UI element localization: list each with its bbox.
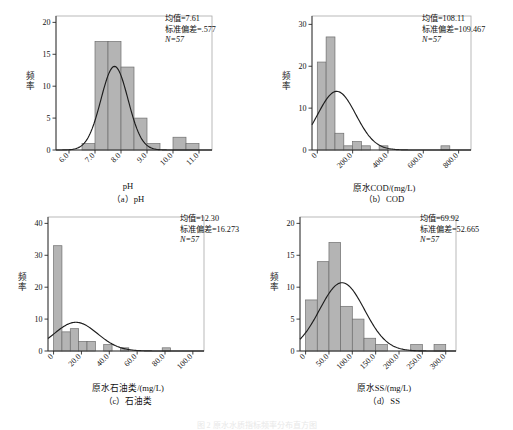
panel-d-caption: （d）SS (256, 394, 512, 406)
svg-text:50.0: 50.0 (314, 352, 330, 368)
figure-caption: 图 2 原水水质指标频率分布直方图 (0, 419, 513, 430)
panel-b-stats: 均值=108.11 标准偏差=109.467 N=57 (422, 14, 485, 46)
svg-text:300.0: 300.0 (428, 352, 447, 371)
panel-a-mean: 均值=7.61 (165, 14, 216, 25)
panel-c-sd: 标准偏差=16.273 (180, 225, 239, 236)
svg-text:20: 20 (43, 18, 51, 27)
svg-text:30: 30 (35, 251, 43, 260)
svg-text:11.0: 11.0 (184, 151, 200, 167)
svg-text:频: 频 (26, 70, 35, 81)
panel-a-ph: 051015206.07.08.09.010.011.0频率 均值=7.61 标… (0, 0, 256, 205)
svg-text:40: 40 (35, 219, 43, 228)
svg-text:率: 率 (270, 281, 279, 292)
panel-d-sd: 标准偏差=52.665 (420, 225, 479, 236)
panel-a-sd: 标准偏差=.577 (165, 25, 216, 36)
svg-text:0: 0 (303, 146, 307, 155)
svg-text:250.0: 250.0 (405, 352, 424, 371)
svg-text:0: 0 (47, 146, 51, 155)
svg-text:6.0: 6.0 (57, 151, 70, 164)
svg-text:100.0: 100.0 (335, 352, 354, 371)
svg-text:600.0: 600.0 (406, 151, 425, 170)
svg-text:20: 20 (287, 219, 295, 228)
panel-b-n: N=57 (422, 35, 485, 46)
panel-c-xlabel: 原水石油类/(mg/L) (0, 381, 256, 393)
svg-text:10: 10 (43, 82, 51, 91)
svg-text:9.0: 9.0 (135, 151, 148, 164)
svg-text:10: 10 (35, 315, 43, 324)
svg-text:20: 20 (299, 62, 307, 71)
panel-c-caption: （c）石油类 (0, 394, 256, 406)
svg-text:5: 5 (47, 114, 51, 123)
svg-text:150.0: 150.0 (358, 352, 377, 371)
svg-text:率: 率 (26, 80, 35, 91)
panel-b-cod: 01020300200.0400.0600.0800.0频率 均值=108.11… (256, 0, 512, 205)
svg-text:20.0: 20.0 (67, 352, 83, 368)
panel-b-caption: （b）COD (256, 192, 512, 204)
svg-text:率: 率 (18, 281, 27, 292)
svg-text:30: 30 (299, 20, 307, 29)
panel-d-xlabel: 原水SS/(mg/L) (256, 381, 512, 393)
svg-text:率: 率 (282, 80, 291, 91)
svg-text:400.0: 400.0 (370, 151, 389, 170)
svg-text:8.0: 8.0 (109, 151, 122, 164)
svg-text:15: 15 (287, 251, 295, 260)
svg-text:10.0: 10.0 (158, 151, 174, 167)
panel-d-stats: 均值=69.92 标准偏差=52.665 N=57 (420, 214, 479, 246)
svg-text:0: 0 (39, 347, 43, 356)
panel-a-caption: （a）pH (0, 192, 256, 204)
panel-c-stats: 均值=12.30 标准偏差=16.273 N=57 (180, 214, 239, 246)
panel-a-xlabel: pH (0, 181, 256, 191)
svg-text:7.0: 7.0 (83, 151, 96, 164)
svg-text:20: 20 (35, 283, 43, 292)
svg-text:频: 频 (282, 70, 291, 81)
panel-d-n: N=57 (420, 235, 479, 246)
svg-text:100.0: 100.0 (175, 352, 194, 371)
svg-text:200.0: 200.0 (335, 151, 354, 170)
svg-text:5: 5 (291, 315, 295, 324)
panel-c-oil: 010203040020.040.060.080.0100.0频率 均值=12.… (0, 205, 256, 410)
svg-text:0: 0 (291, 347, 295, 356)
panel-c-n: N=57 (180, 235, 239, 246)
svg-text:40.0: 40.0 (94, 352, 110, 368)
svg-text:800.0: 800.0 (441, 151, 460, 170)
svg-text:10: 10 (299, 104, 307, 113)
svg-text:频: 频 (270, 271, 279, 282)
panel-b-sd: 标准偏差=109.467 (422, 25, 485, 36)
svg-text:200.0: 200.0 (381, 352, 400, 371)
panel-a-plot: 051015206.07.08.09.010.011.0频率 (0, 0, 256, 205)
svg-text:80.0: 80.0 (150, 352, 166, 368)
panel-a-stats: 均值=7.61 标准偏差=.577 N=57 (165, 14, 216, 46)
panel-d-mean: 均值=69.92 (420, 214, 479, 225)
panel-b-mean: 均值=108.11 (422, 14, 485, 25)
panel-d-ss: 05101520050.0100.0150.0200.0250.0300.0频率… (256, 205, 512, 410)
histogram-figure: 051015206.07.08.09.010.011.0频率 均值=7.61 标… (0, 0, 513, 430)
svg-text:10: 10 (287, 283, 295, 292)
panel-c-mean: 均值=12.30 (180, 214, 239, 225)
panel-a-n: N=57 (165, 35, 216, 46)
svg-text:15: 15 (43, 50, 51, 59)
svg-text:频: 频 (18, 271, 27, 282)
svg-text:60.0: 60.0 (122, 352, 138, 368)
